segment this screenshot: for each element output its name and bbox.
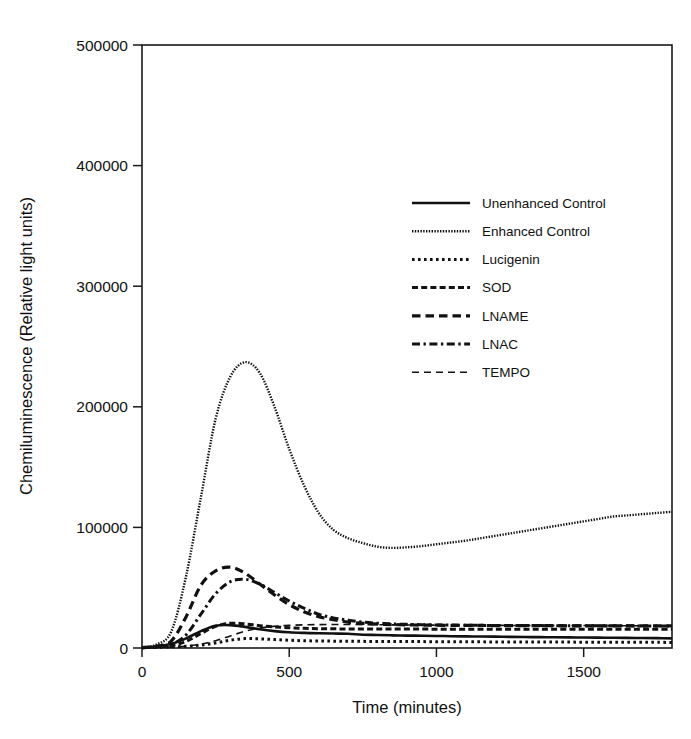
legend-label-6: TEMPO — [482, 365, 530, 380]
legend-label-3: SOD — [482, 280, 512, 295]
y-tick-label: 500000 — [76, 37, 128, 54]
x-tick-label: 1000 — [419, 663, 454, 680]
y-axis-title: Chemiluminescence (Relative light units) — [17, 197, 35, 495]
legend-label-4: LNAME — [482, 309, 529, 324]
figure-container: 0100000200000300000400000500000 05001000… — [0, 0, 691, 739]
y-tick-label: 400000 — [76, 157, 128, 174]
y-tick-label: 300000 — [76, 278, 128, 295]
y-tick-label: 0 — [119, 640, 128, 657]
legend-label-5: LNAC — [482, 337, 518, 352]
y-tick-label: 200000 — [76, 398, 128, 415]
chart-background — [0, 0, 691, 739]
x-tick-label: 1500 — [566, 663, 601, 680]
x-tick-label: 500 — [276, 663, 302, 680]
x-axis-title: Time (minutes) — [352, 698, 461, 716]
legend-label-1: Enhanced Control — [482, 224, 590, 239]
legend-label-2: Lucigenin — [482, 252, 540, 267]
y-tick-label: 100000 — [76, 519, 128, 536]
chemiluminescence-line-chart: 0100000200000300000400000500000 05001000… — [0, 0, 691, 739]
x-tick-label: 0 — [138, 663, 147, 680]
legend-label-0: Unenhanced Control — [482, 196, 606, 211]
